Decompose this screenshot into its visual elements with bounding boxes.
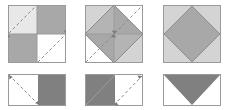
quadrant-bottom-left — [8, 34, 37, 63]
figure-5-left-triangle-rectangle — [85, 74, 143, 106]
quadrant-top-right — [37, 5, 66, 34]
right-half-dark — [38, 74, 66, 106]
figure-2-inscribed-diamond-square — [85, 5, 143, 63]
figure-1-checkerboard-square — [8, 5, 66, 63]
figure-4-half-shaded-rectangle — [8, 74, 66, 106]
figure-3-light-square-with-gray-diamond — [163, 5, 221, 63]
figure-canvas — [0, 0, 240, 110]
figure-6-downward-triangle-rectangle — [163, 74, 221, 106]
left-half-white — [8, 74, 38, 106]
